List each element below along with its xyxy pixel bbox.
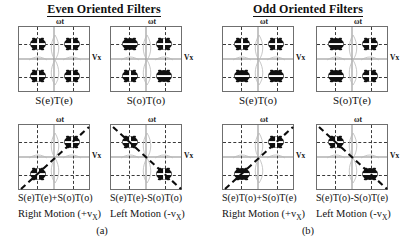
panel-odd-top-right: ωtVxS(o)T(e) — [316, 26, 388, 136]
panel-motion-label: Left Motion (-vX) — [110, 208, 182, 222]
plot-area — [222, 124, 294, 190]
filter-lobe-q3 — [233, 69, 250, 82]
filter-lobe-q1 — [268, 38, 285, 51]
grid-line-vertical — [277, 125, 278, 189]
filter-lobe-q1 — [156, 38, 173, 51]
panel-even-bottom-right: ωtVxS(e)T(e)-S(o)T(o)Left Motion (-vX) — [110, 124, 182, 234]
panel-equation: S(e)T(o)+S(o)T(e) — [222, 192, 294, 203]
axis-label-omega-t: ωt — [260, 115, 268, 124]
subfigure-label-a: (a) — [72, 225, 132, 236]
panel-even-bottom-left: ωtVxS(e)T(e)+S(o)T(o)Right Motion (+vX) — [18, 124, 90, 234]
filter-lobe-q2 — [121, 38, 138, 51]
panel-odd-top-left: ωtVxS(e)T(o) — [222, 26, 294, 136]
plot-area — [110, 124, 182, 190]
axis-label-omega-t: ωt — [148, 115, 156, 124]
filter-lobe-q3 — [233, 167, 250, 180]
plot-area — [110, 26, 182, 92]
filter-lobe-q4 — [268, 69, 285, 82]
filter-lobe-q3 — [327, 69, 344, 82]
axis-label-vx: Vx — [92, 53, 101, 62]
axis-horizontal — [223, 157, 293, 158]
grid-line-vertical — [335, 125, 336, 189]
panel-equation: S(e)T(e)-S(o)T(o) — [110, 192, 182, 203]
filter-lobe-q2 — [121, 136, 138, 149]
filter-lobe-q4 — [362, 69, 379, 82]
plot-area — [316, 26, 388, 92]
panel-equation: S(o)T(o) — [110, 94, 182, 106]
panel-odd-bottom-right: ωtVxS(e)T(o)-S(o)T(e)Left Motion (-vX) — [316, 124, 388, 234]
filter-lobe-q4 — [362, 167, 379, 180]
filter-lobe-q2 — [233, 38, 250, 51]
plot-area — [222, 26, 294, 92]
panel-motion-label: Right Motion (+vX) — [18, 208, 90, 222]
axis-label-omega-t: ωt — [148, 17, 156, 26]
axis-horizontal — [19, 157, 89, 158]
filter-lobe-q1 — [268, 136, 285, 149]
axis-horizontal — [111, 157, 181, 158]
filter-lobe-q3 — [121, 69, 138, 82]
subfigure-label-b: (b) — [278, 225, 338, 236]
axis-label-vx: Vx — [184, 151, 193, 160]
panel-even-top-right: ωtVxS(o)T(o) — [110, 26, 182, 136]
panel-equation: S(e)T(e) — [18, 94, 90, 106]
panel-equation: S(e)T(e)+S(o)T(o) — [18, 192, 90, 203]
axis-label-omega-t: ωt — [56, 17, 64, 26]
axis-horizontal — [111, 59, 181, 60]
grid-line-vertical — [129, 125, 130, 189]
filter-lobe-q4 — [156, 167, 173, 180]
filter-lobe-q2 — [29, 38, 46, 51]
filter-lobe-q3 — [29, 69, 46, 82]
plot-area — [18, 26, 90, 92]
filter-lobe-q4 — [64, 69, 81, 82]
panel-equation: S(e)T(o)-S(o)T(e) — [316, 192, 388, 203]
panel-even-top-left: ωtVxS(e)T(e) — [18, 26, 90, 136]
filter-lobe-q3 — [29, 167, 46, 180]
panel-odd-bottom-left: ωtVxS(e)T(o)+S(o)T(e)Right Motion (+vX) — [222, 124, 294, 234]
filter-lobe-q4 — [156, 69, 173, 82]
filter-lobe-q1 — [64, 38, 81, 51]
panel-motion-label: Left Motion (-vX) — [316, 208, 388, 222]
column-title-odd-text: Odd Oriented Filters — [253, 2, 363, 17]
filter-lobe-q2 — [327, 136, 344, 149]
axis-label-vx: Vx — [390, 53, 399, 62]
panel-equation: S(o)T(e) — [316, 94, 388, 106]
plot-area — [316, 124, 388, 190]
axis-label-omega-t: ωt — [354, 115, 362, 124]
axis-horizontal — [317, 157, 387, 158]
axis-label-vx: Vx — [296, 151, 305, 160]
column-title-odd: Odd Oriented Filters — [218, 2, 398, 17]
column-title-even: Even Oriented Filters — [14, 2, 194, 17]
panel-motion-label: Right Motion (+vX) — [222, 208, 294, 222]
axis-label-vx: Vx — [92, 151, 101, 160]
grid-line-vertical — [73, 125, 74, 189]
axis-label-vx: Vx — [184, 53, 193, 62]
axis-horizontal — [223, 59, 293, 60]
axis-label-omega-t: ωt — [260, 17, 268, 26]
axis-label-omega-t: ωt — [56, 115, 64, 124]
axis-label-vx: Vx — [390, 151, 399, 160]
axis-horizontal — [317, 59, 387, 60]
axis-label-omega-t: ωt — [354, 17, 362, 26]
axis-horizontal — [19, 59, 89, 60]
filter-lobe-q2 — [327, 38, 344, 51]
axis-label-vx: Vx — [296, 53, 305, 62]
column-title-even-text: Even Oriented Filters — [47, 2, 160, 17]
plot-area — [18, 124, 90, 190]
panel-equation: S(e)T(o) — [222, 94, 294, 106]
figure-root: Even Oriented Filters Odd Oriented Filte… — [0, 0, 411, 246]
filter-lobe-q1 — [64, 136, 81, 149]
filter-lobe-q1 — [362, 38, 379, 51]
